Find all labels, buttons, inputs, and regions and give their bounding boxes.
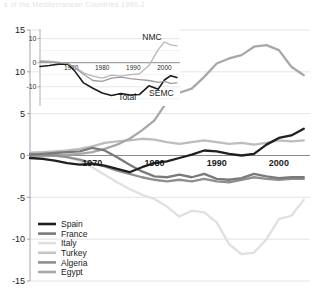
y-tick-label--10: -10 (12, 234, 25, 244)
inset-x-tick-label-2000: 2000 (157, 64, 172, 71)
y-tick-label--15: -15 (12, 276, 25, 286)
y-tick-label-10: 10 (15, 67, 25, 77)
inset-y-tick-label--10: -10 (26, 83, 36, 90)
inset-y-tick-label-0: 0 (33, 59, 37, 66)
inset-annotation-nmc: NMC (142, 32, 161, 42)
legend-label-spain: Spain (61, 219, 83, 229)
inset-annotation-semc: SEMC (149, 88, 174, 98)
y-axis: 151050-5-10-15 (12, 25, 30, 286)
legend-label-egypt: Egypt (61, 267, 83, 277)
y-tick-label-15: 15 (15, 25, 25, 35)
x-tick-label-1970: 1970 (82, 158, 102, 168)
x-tick-label-1990: 1990 (207, 158, 227, 168)
y-tick-label-0: 0 (20, 151, 25, 161)
x-tick-label-2000: 2000 (269, 158, 289, 168)
inset-chart: 100-101970198019902000NMCTotalSEMC (26, 29, 180, 106)
legend-label-france: France (61, 229, 88, 239)
x-tick-label-1980: 1980 (144, 158, 164, 168)
chart-root: s of the Mediterranean Countries 1960-20… (0, 0, 317, 304)
inset-annotation-total: Total (118, 92, 136, 102)
inset-x-tick-label-1980: 1980 (95, 64, 110, 71)
y-tick-label-5: 5 (20, 109, 25, 119)
inset-y-tick-label-10: 10 (29, 35, 37, 42)
legend-label-turkey: Turkey (61, 248, 87, 258)
y-tick-label--5: -5 (17, 193, 25, 203)
legend-label-algeria: Algeria (61, 258, 88, 268)
legend-label-italy: Italy (61, 238, 77, 248)
mediterranean-migration-line-chart: 151050-5-10-151970198019902000100-101970… (0, 0, 317, 304)
inset-x-tick-label-1990: 1990 (126, 64, 141, 71)
